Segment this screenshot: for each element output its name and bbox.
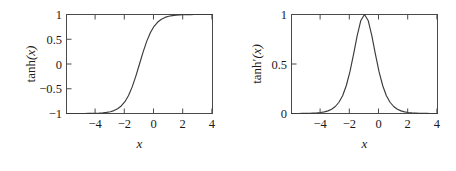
y-tick-label: 1	[26, 8, 62, 23]
x-tick-label: 4	[192, 117, 232, 132]
y-tick-label: 0	[26, 58, 62, 73]
y-axis-label-arg: (x)	[249, 44, 264, 58]
y-tick-label: −1	[26, 107, 62, 122]
y-ticks-tanh-derivative	[292, 15, 297, 114]
axes-frame-tanh-derivative	[292, 15, 438, 114]
figure-tanh-and-derivative: tanh(x) 1 0.5 0 −0.5 −1 −4 −2 0 2 4 x	[0, 0, 456, 171]
y-tick-label: 0	[251, 107, 287, 122]
data-curve-tanh-derivative	[292, 15, 438, 114]
y-tick-label: 0.5	[26, 33, 62, 48]
plot-frame	[292, 15, 438, 114]
y-ticks-tanh	[67, 15, 72, 114]
data-curve-tanh	[67, 15, 213, 114]
panel-tanh-derivative: tanh′(x) 1 0.5 0 −4 −2 0 2 4 x	[228, 0, 456, 171]
x-ticks-tanh	[95, 15, 212, 114]
y-tick-label: 0.5	[251, 58, 287, 73]
y-tick-label: −0.5	[26, 82, 62, 97]
x-axis-label-tanh: x	[120, 136, 160, 152]
panel-tanh: tanh(x) 1 0.5 0 −0.5 −1 −4 −2 0 2 4 x	[0, 0, 228, 171]
x-ticks-tanh-derivative	[320, 15, 437, 114]
x-tick-label: 4	[417, 117, 456, 132]
y-tick-label: 1	[251, 8, 287, 23]
x-axis-label-tanh-derivative: x	[345, 136, 385, 152]
